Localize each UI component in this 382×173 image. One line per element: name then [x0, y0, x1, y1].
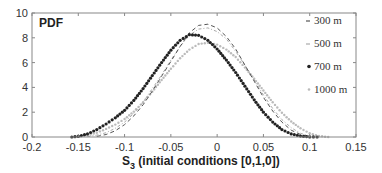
data-marker [176, 41, 179, 44]
data-marker [86, 132, 89, 135]
data-marker [288, 118, 290, 120]
data-marker [105, 128, 107, 130]
x-tick-label: 0.1 [302, 141, 317, 153]
y-tick-label: 6 [22, 57, 28, 69]
data-marker [151, 74, 154, 77]
data-marker [166, 72, 168, 74]
legend-label: 700 m [314, 60, 342, 72]
data-marker [268, 96, 270, 98]
data-marker [197, 43, 199, 45]
data-marker [147, 79, 150, 82]
panel-label: PDF [39, 16, 63, 30]
pdf-chart: -0.2-0.15-0.1-0.0500.050.10.15 0246810 P… [0, 0, 382, 173]
data-marker [126, 116, 128, 118]
data-marker [145, 82, 148, 85]
data-marker [191, 47, 193, 49]
data-marker [191, 33, 194, 36]
data-marker [179, 57, 181, 59]
legend-label: 1000 m [314, 83, 348, 95]
data-marker [98, 126, 101, 129]
legend-swatch [307, 65, 311, 69]
data-marker [174, 62, 176, 64]
x-tick-label: -0.15 [66, 141, 91, 153]
data-marker [194, 34, 197, 37]
data-marker [257, 82, 259, 84]
data-marker [130, 112, 132, 114]
data-marker [101, 124, 104, 127]
data-marker [185, 35, 188, 38]
data-marker [99, 130, 101, 132]
data-marker [177, 60, 179, 62]
y-tick-label: 2 [22, 106, 28, 118]
data-marker [114, 123, 116, 125]
data-marker [281, 112, 283, 114]
data-marker [143, 84, 146, 87]
data-marker [234, 71, 237, 74]
data-marker [194, 45, 196, 47]
data-marker [179, 39, 182, 42]
data-marker [266, 94, 268, 96]
data-marker [239, 61, 241, 63]
y-tick-label: 0 [22, 131, 28, 143]
data-marker [203, 37, 206, 40]
data-marker [111, 118, 114, 121]
legend-swatch [308, 88, 311, 91]
data-marker [130, 101, 133, 104]
data-marker [283, 129, 286, 132]
data-marker [125, 106, 128, 109]
data-marker [262, 89, 264, 91]
data-marker [302, 135, 305, 138]
data-marker [216, 43, 218, 45]
data-marker [260, 87, 262, 89]
data-marker [295, 124, 297, 126]
data-marker [264, 113, 267, 116]
data-marker [305, 130, 307, 132]
data-marker [154, 69, 157, 72]
data-marker [238, 76, 241, 79]
data-marker [174, 44, 177, 47]
data-marker [299, 127, 301, 129]
data-marker [117, 122, 119, 124]
data-marker [169, 49, 172, 52]
data-marker [232, 54, 234, 56]
x-tick-label: 0.15 [345, 141, 366, 153]
data-marker [83, 133, 86, 136]
legend-label: 500 m [314, 37, 342, 49]
data-marker [293, 133, 296, 136]
data-marker [287, 131, 290, 134]
data-marker [204, 42, 206, 44]
data-marker [278, 109, 280, 111]
data-marker [128, 114, 130, 116]
data-marker [133, 110, 135, 112]
data-marker [237, 59, 239, 61]
data-marker [201, 42, 203, 44]
data-marker [245, 87, 248, 90]
data-marker [312, 133, 314, 135]
data-marker [235, 56, 237, 58]
data-marker [302, 129, 304, 131]
data-marker [123, 109, 126, 112]
data-marker [225, 48, 227, 50]
data-marker [274, 104, 276, 106]
data-marker [297, 125, 299, 127]
data-marker [120, 120, 122, 122]
data-marker [270, 99, 272, 101]
data-marker [181, 55, 183, 57]
data-marker [262, 111, 265, 114]
data-marker [292, 122, 294, 124]
y-tick-label: 10 [16, 7, 28, 19]
data-marker [160, 79, 162, 81]
data-marker [186, 51, 188, 53]
data-marker [102, 129, 104, 131]
data-marker [96, 132, 98, 134]
data-marker [157, 84, 159, 86]
data-marker [247, 90, 250, 93]
data-marker [219, 45, 221, 47]
data-marker [285, 116, 287, 118]
data-marker [168, 70, 170, 72]
data-marker [149, 77, 152, 80]
data-marker [184, 53, 186, 55]
data-marker [93, 132, 95, 134]
x-axis-label-main: S [122, 154, 130, 168]
y-tick-label: 4 [22, 81, 28, 93]
